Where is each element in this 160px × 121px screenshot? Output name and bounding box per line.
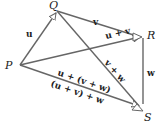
vector-u-plus-v	[20, 37, 140, 65]
label-v: v	[92, 17, 99, 27]
point-label-q: Q	[49, 0, 58, 12]
point-label-s: S	[144, 111, 152, 121]
arrowhead-r	[133, 33, 142, 41]
point-label-p: P	[4, 59, 13, 72]
label-u: u	[26, 29, 33, 39]
label-w: w	[146, 68, 155, 78]
arrowhead-s	[132, 104, 143, 111]
label-v-plus-w: v + w	[102, 57, 128, 85]
vector-diagram: P Q R S u v u + v w v + w u + (v + w) (u…	[0, 0, 160, 121]
point-label-r: R	[146, 29, 155, 42]
